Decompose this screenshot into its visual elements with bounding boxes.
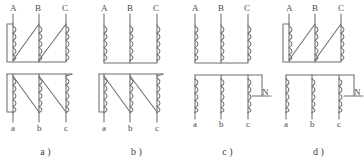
panel-c-schematic bbox=[182, 0, 273, 138]
lv-delta-winding-a bbox=[7, 74, 72, 122]
lv-delta-winding-b bbox=[99, 74, 163, 122]
diagram-panel-d: A B C a b c N bbox=[273, 0, 364, 161]
panel-b-schematic bbox=[91, 0, 182, 138]
panel-caption-d: d ) bbox=[273, 146, 364, 157]
neutral-ground-symbol-d bbox=[344, 75, 363, 96]
lv-wye-winding-c bbox=[195, 75, 271, 119]
panel-a-schematic bbox=[0, 0, 91, 138]
diagram-panel-b: A B C a b c bbox=[91, 0, 182, 161]
panel-d-schematic bbox=[273, 0, 364, 138]
panel-caption-c: c ) bbox=[182, 146, 273, 157]
hv-wye-winding-c bbox=[195, 14, 251, 63]
hv-delta-winding-d bbox=[283, 14, 344, 62]
hv-delta-winding-a bbox=[7, 14, 69, 62]
panel-caption-a: a ) bbox=[0, 146, 91, 157]
hv-wye-winding-b bbox=[104, 14, 160, 63]
diagram-panel-a: A B C a b c bbox=[0, 0, 91, 161]
diagram-panel-c: A B C a b c N bbox=[182, 0, 273, 161]
neutral-ground-symbol-c bbox=[252, 75, 271, 96]
lv-wye-winding-d bbox=[286, 75, 363, 119]
panel-caption-b: b ) bbox=[91, 146, 182, 157]
